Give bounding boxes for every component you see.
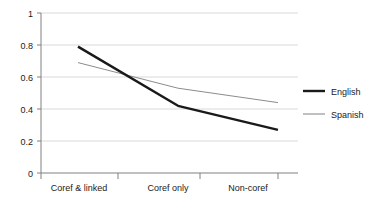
legend-label-spanish: Spanish <box>331 110 364 120</box>
y-tick-label-0.8: 0.8 <box>20 41 33 51</box>
y-tick-label-0.4: 0.4 <box>20 105 33 115</box>
y-tick-label-0: 0 <box>28 169 33 179</box>
x-tick-label-coref-only: Coref only <box>147 183 189 193</box>
line-chart: 1 0.8 0.6 0.4 0.2 0 Coref & linked Coref… <box>0 0 371 204</box>
legend-item-spanish[interactable]: Spanish <box>303 110 364 120</box>
x-tick-label-non-coref: Non-coref <box>228 183 268 193</box>
y-tick-label-0.6: 0.6 <box>20 73 33 83</box>
legend-label-english: English <box>331 87 361 97</box>
chart-figure: 1 0.8 0.6 0.4 0.2 0 Coref & linked Coref… <box>0 0 371 204</box>
series-line-spanish <box>78 63 278 103</box>
legend-item-english[interactable]: English <box>303 87 361 97</box>
x-tick-label-coref-and-linked: Coref & linked <box>51 183 108 193</box>
legend: English Spanish <box>303 87 364 120</box>
y-tick-label-1: 1 <box>28 9 33 19</box>
gridlines <box>41 13 298 141</box>
y-axis-ticks <box>37 13 41 173</box>
y-tick-label-0.2: 0.2 <box>20 137 33 147</box>
x-axis-ticks <box>41 173 278 179</box>
